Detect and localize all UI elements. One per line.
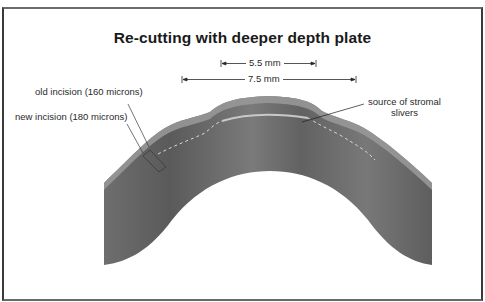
dimension-label-5-5mm: 5.5 mm [246,57,284,68]
label-stromal-source: source of stromal slivers [366,96,443,118]
label-new-incision: new incision (180 microns) [15,111,127,122]
diagram-title: Re-cutting with deeper depth plate [0,29,485,47]
leader-new-incision [127,124,143,153]
label-stromal-line1: source of stromal [366,96,443,107]
dimension-label-7-5mm: 7.5 mm [245,73,283,84]
label-old-incision: old incision (160 microns) [35,86,143,97]
label-stromal-line2: slivers [366,107,443,118]
cornea-tissue [104,96,432,265]
leader-old-incision [128,104,149,147]
